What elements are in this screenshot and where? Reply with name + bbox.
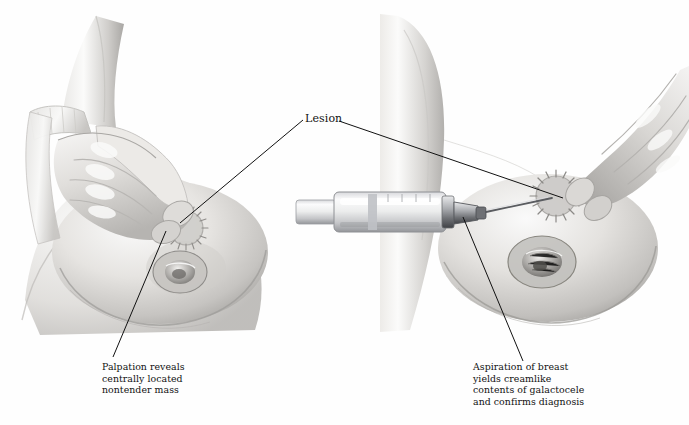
caption-left-line-2: centrally located — [102, 373, 185, 385]
illustration-canvas: Lesion Palpation reveals centrally locat… — [0, 0, 689, 425]
palpation-panel — [0, 0, 300, 360]
caption-left-line-3: nontender mass — [102, 384, 185, 396]
nipple-areola-right — [508, 236, 576, 288]
caption-right-line-2: yields creamlike — [473, 373, 584, 385]
lesion-label: Lesion — [305, 113, 342, 124]
aspiration-panel — [380, 0, 689, 360]
caption-right-line-3: contents of galactocele — [473, 384, 584, 396]
caption-left: Palpation reveals centrally located nont… — [102, 361, 185, 396]
nipple-areola-left — [153, 251, 207, 293]
caption-right-line-1: Aspiration of breast — [473, 361, 584, 373]
caption-left-line-1: Palpation reveals — [102, 361, 185, 373]
caption-right: Aspiration of breast yields creamlike co… — [473, 361, 584, 407]
caption-right-line-4: and confirms diagnosis — [473, 396, 584, 408]
